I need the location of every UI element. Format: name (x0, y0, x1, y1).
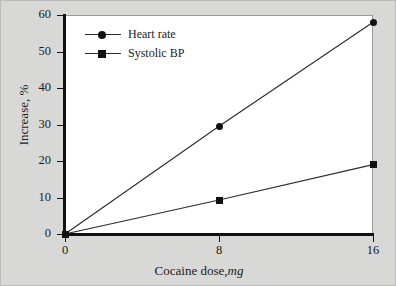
series-line (65, 165, 373, 234)
x-axis-title: Cocaine dose,mg (1, 263, 396, 279)
legend-label: Systolic BP (128, 46, 184, 61)
x-axis-title-unit: mg (228, 263, 244, 278)
y-axis-title: Increase, % (16, 55, 32, 175)
legend-item: Heart rate (85, 25, 184, 44)
chart-figure: 0102030405060 0816 Heart rateSystolic BP… (0, 0, 396, 286)
legend-marker-icon (85, 48, 121, 60)
x-axis-title-text: Cocaine dose, (155, 263, 228, 278)
chart-legend: Heart rateSystolic BP (85, 25, 184, 63)
legend-item: Systolic BP (85, 44, 184, 63)
series-lines (1, 1, 396, 286)
legend-marker-icon (85, 29, 121, 41)
legend-label: Heart rate (128, 27, 176, 42)
